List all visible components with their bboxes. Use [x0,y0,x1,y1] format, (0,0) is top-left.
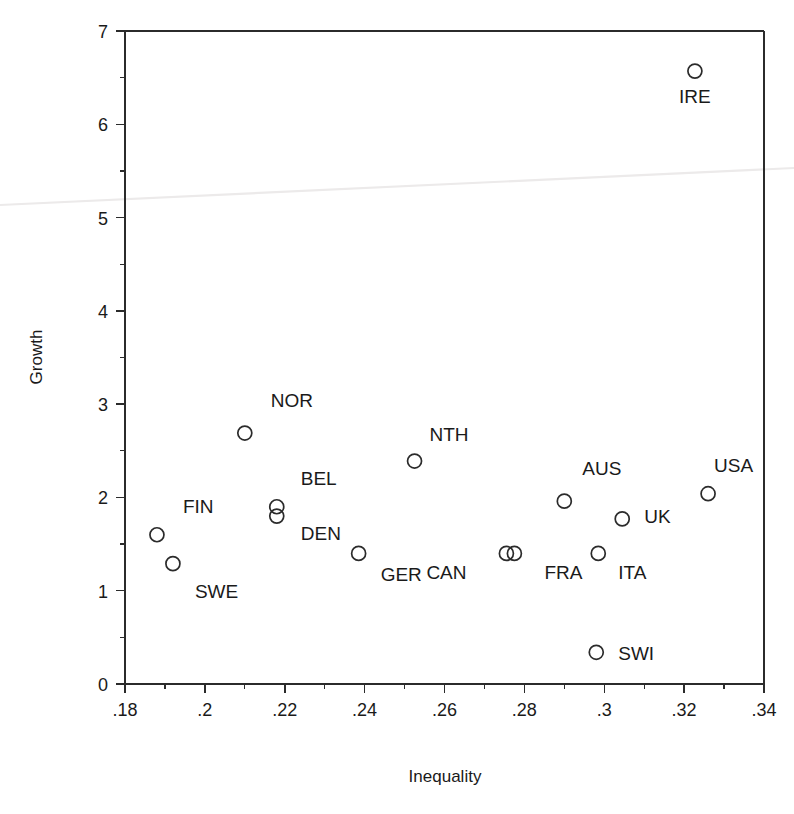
data-point-label: FRA [544,562,582,583]
y-axis-title: Growth [27,330,46,385]
data-point-label: AUS [582,458,621,479]
data-point-label: GER [381,564,422,585]
y-tick-labels: 01234567 [98,22,108,695]
y-tick-label: 4 [98,302,108,322]
x-tick-label: .24 [352,700,377,720]
data-point-marker [557,494,571,508]
data-point-marker [408,454,422,468]
y-tick-label: 5 [98,209,108,229]
y-tick-label: 1 [98,582,108,602]
x-tick-label: .32 [672,700,697,720]
scatter-plot-figure: .18.2.22.24.26.28.3.32.34 01234567 FINSW… [0,0,794,814]
x-axis-title: Inequality [409,767,482,786]
scan-artifact-line [0,168,794,205]
y-tick-label: 2 [98,488,108,508]
data-point-marker [591,546,605,560]
data-point-label: DEN [301,523,341,544]
data-point-label: NTH [430,424,469,445]
x-tick-label: .26 [432,700,457,720]
y-tick-label: 7 [98,22,108,42]
data-point-label: USA [714,455,753,476]
data-point-label: SWI [618,643,654,664]
data-point-marker [615,512,629,526]
data-point-marker [166,557,180,571]
x-tick-label: .2 [197,700,212,720]
x-tick-labels: .18.2.22.24.26.28.3.32.34 [112,700,776,720]
data-point-marker [270,509,284,523]
data-point-label: BEL [301,468,337,489]
data-point-marker [238,426,252,440]
data-point-label: ITA [618,562,646,583]
data-point-marker [688,64,702,78]
data-point-label: NOR [271,390,313,411]
data-point-label: UK [644,506,671,527]
data-point-label: FIN [183,496,214,517]
data-point-marker [499,546,513,560]
x-tick-label: .22 [272,700,297,720]
data-point-label: IRE [679,86,711,107]
data-point-label: CAN [426,562,466,583]
x-tick-label: .18 [112,700,137,720]
data-point-marker [352,546,366,560]
data-point-marker [150,528,164,542]
plot-canvas: .18.2.22.24.26.28.3.32.34 01234567 FINSW… [0,0,794,814]
x-tick-label: .34 [751,700,776,720]
x-tick-label: .28 [512,700,537,720]
y-tick-label: 3 [98,395,108,415]
data-point-marker [507,546,521,560]
x-tick-label: .3 [597,700,612,720]
data-point-marker [701,487,715,501]
data-point-marker [589,645,603,659]
y-tick-label: 0 [98,675,108,695]
y-tick-label: 6 [98,115,108,135]
data-point-label: SWE [195,581,238,602]
